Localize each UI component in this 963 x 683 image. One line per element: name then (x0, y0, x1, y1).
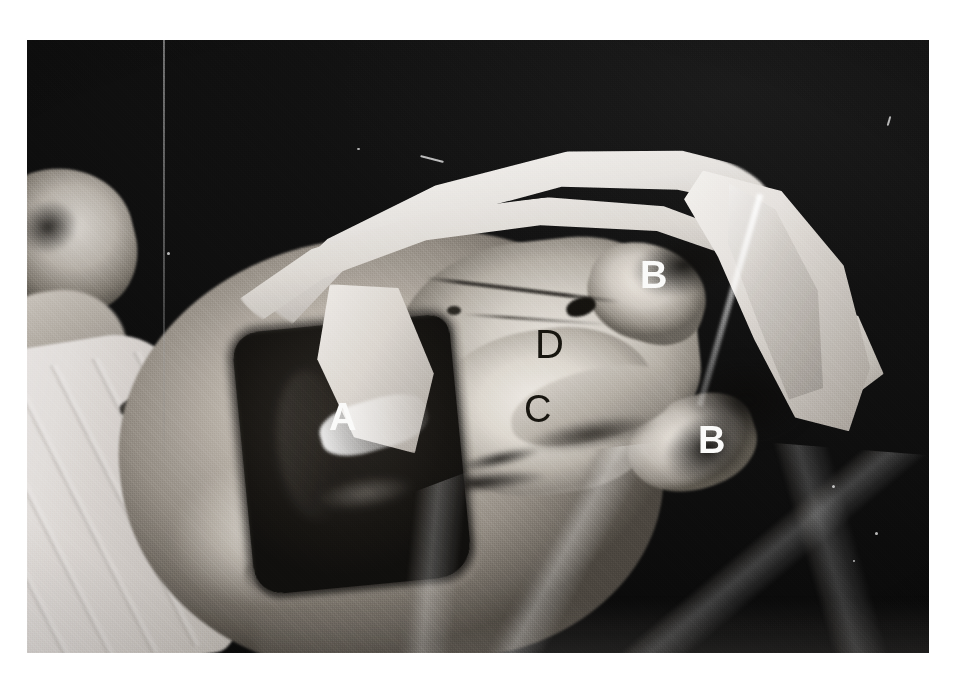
drape-bottom-shading (257, 600, 929, 653)
photographic-plate: A B B C D (a) (27, 40, 929, 653)
film-dust-speck (167, 252, 170, 255)
film-scratch-line (163, 40, 165, 470)
figure-page: A B B C D (a) (0, 0, 963, 683)
callout-label-b-lower: B (698, 421, 725, 459)
film-dust-speck (853, 560, 855, 562)
film-dust-speck (357, 148, 360, 150)
tissue-dark-speck (447, 306, 461, 315)
callout-label-a: A (329, 398, 356, 436)
film-dust-speck (832, 485, 835, 488)
film-dust-speck (875, 532, 878, 535)
callout-label-d: D (535, 324, 564, 364)
callout-label-c: C (524, 390, 551, 428)
callout-label-b-upper: B (640, 256, 667, 294)
